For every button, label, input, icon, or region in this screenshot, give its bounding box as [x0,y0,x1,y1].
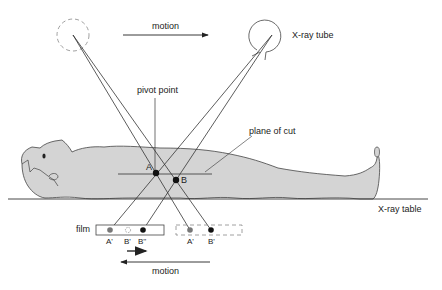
motion-label-bottom: motion [152,267,179,276]
plane-of-cut-label: plane of cut [249,127,296,136]
toes [375,147,380,157]
film-label: film [76,225,90,234]
film-point-b-prime-right [208,227,214,233]
point-a-label: A [146,163,152,172]
film [96,225,164,235]
xray-table-label: X-ray table [378,205,422,214]
point-a [153,170,159,176]
film-a-prime-right-label: A' [187,238,194,246]
pivot-point-label: pivot point [137,86,178,95]
film-point-a-prime-right [187,227,193,233]
film-a-prime-left-label: A' [106,238,113,246]
film-b-prime-right-label: B' [208,238,215,246]
ray-left-a [73,35,190,230]
patient-body [21,140,379,199]
film-b-prime-left-label: B' [124,238,131,246]
ray-right-a [110,35,272,230]
point-b-label: B [181,176,187,185]
film-b-double-prime-label: B'' [138,238,146,246]
motion-label-top: motion [152,22,179,31]
diagram-canvas [0,0,442,290]
eye-icon [42,153,45,158]
film-point-a-prime-left [107,227,113,233]
xray-tube-icon [249,20,281,60]
ray-left-b [73,35,211,230]
film-point-b-double-prime [140,227,146,233]
xray-tube-label: X-ray tube [292,31,334,40]
tomography-diagram: motion X-ray tube pivot point plane of c… [0,0,442,290]
point-b [173,177,179,183]
